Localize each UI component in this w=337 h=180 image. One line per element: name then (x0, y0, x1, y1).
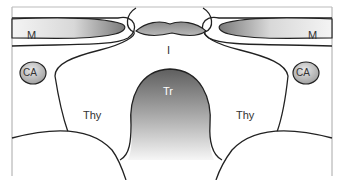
label-muscle-right: M (308, 30, 317, 41)
isthmus (136, 22, 206, 35)
label-isthmus: I (167, 45, 170, 56)
thyroid-cross-section-diagram: M M CA CA I Tr Thy Thy (0, 0, 337, 180)
label-muscle-left: M (27, 30, 36, 41)
label-carotid-right: CA (296, 68, 310, 78)
lower-structure-left (12, 131, 126, 180)
label-trachea: Tr (163, 86, 173, 97)
lower-structure-right (216, 131, 332, 180)
label-carotid-left: CA (23, 68, 37, 78)
label-thyroid-left: Thy (83, 110, 101, 121)
label-thyroid-right: Thy (236, 110, 254, 121)
